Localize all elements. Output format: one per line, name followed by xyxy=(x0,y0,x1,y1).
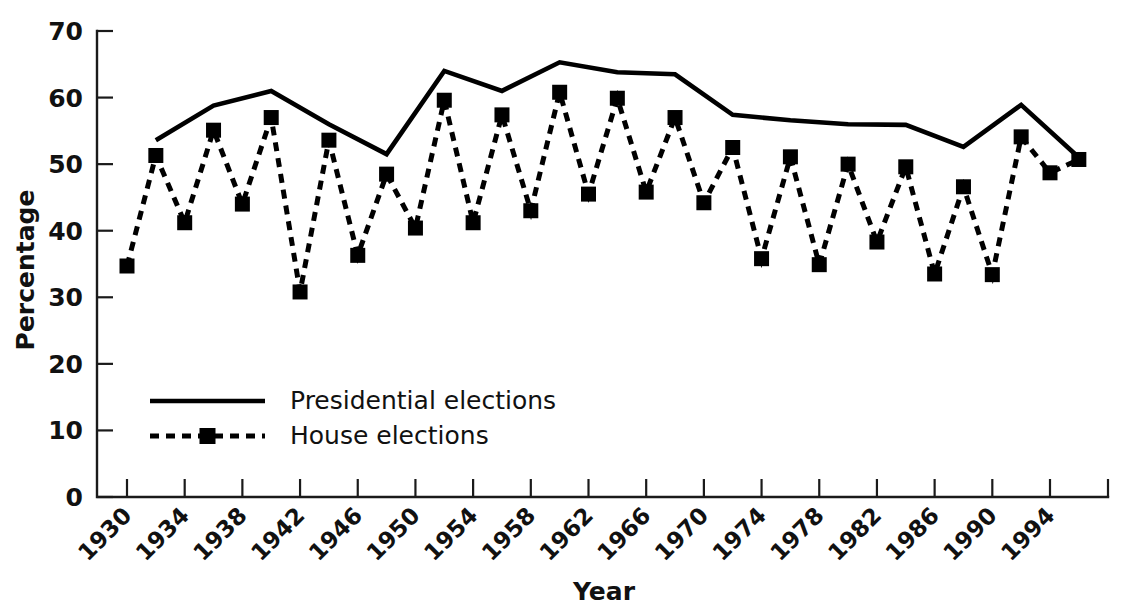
data-point-marker xyxy=(841,157,856,172)
chart-figure: 010203040506070 193019341938194219461950… xyxy=(0,0,1128,616)
chart-series-group xyxy=(120,62,1087,299)
x-tick-label: 1994 xyxy=(996,502,1060,566)
y-tick-label: 40 xyxy=(48,217,83,246)
y-axis-title: Percentage xyxy=(11,190,40,351)
data-point-marker xyxy=(466,215,481,230)
data-point-marker xyxy=(1071,152,1086,167)
x-tick-label: 1986 xyxy=(881,502,945,566)
data-point-marker xyxy=(350,248,365,263)
data-point-marker xyxy=(437,93,452,108)
data-point-marker xyxy=(610,91,625,106)
data-point-marker xyxy=(148,148,163,163)
y-tick-label: 10 xyxy=(48,416,83,445)
data-point-marker xyxy=(639,185,654,200)
x-axis-ticks xyxy=(127,479,1050,497)
chart-legend: Presidential electionsHouse elections xyxy=(150,386,556,450)
y-tick-label: 30 xyxy=(48,283,83,312)
data-point-marker xyxy=(293,284,308,299)
x-tick-label: 1934 xyxy=(131,502,195,566)
data-point-marker xyxy=(494,107,509,122)
x-tick-label: 1966 xyxy=(592,502,656,566)
data-point-marker xyxy=(206,123,221,138)
y-axis-ticks xyxy=(97,31,113,497)
y-tick-label: 20 xyxy=(48,350,83,379)
data-point-marker xyxy=(177,215,192,230)
data-point-marker xyxy=(321,133,336,148)
data-point-marker xyxy=(408,221,423,236)
data-point-marker xyxy=(523,203,538,218)
data-point-marker xyxy=(898,159,913,174)
x-axis-tick-labels: 1930193419381942194619501954195819621966… xyxy=(73,502,1060,566)
axis-lines xyxy=(97,31,1108,497)
data-point-marker xyxy=(668,110,683,125)
x-tick-label: 1942 xyxy=(246,502,310,566)
x-tick-label: 1978 xyxy=(765,502,829,566)
x-tick-label: 1938 xyxy=(188,502,252,566)
data-point-marker xyxy=(783,149,798,164)
data-point-marker xyxy=(985,267,1000,282)
data-point-marker xyxy=(379,167,394,182)
series-line-presidential-elections xyxy=(156,62,1079,157)
x-axis-title: Year xyxy=(572,577,636,606)
y-tick-label: 60 xyxy=(48,84,83,113)
data-point-marker xyxy=(1043,165,1058,180)
x-tick-label: 1990 xyxy=(938,502,1002,566)
data-point-marker xyxy=(869,235,884,250)
x-tick-label: 1970 xyxy=(650,502,714,566)
y-tick-label: 0 xyxy=(66,483,83,512)
legend-label: House elections xyxy=(290,421,489,450)
y-axis-tick-labels: 010203040506070 xyxy=(48,17,83,512)
data-point-marker xyxy=(754,251,769,266)
y-tick-label: 70 xyxy=(48,17,83,46)
data-point-marker xyxy=(581,187,596,202)
x-tick-label: 1958 xyxy=(477,502,541,566)
voter-turnout-line-chart: 010203040506070 193019341938194219461950… xyxy=(0,0,1128,616)
data-point-marker xyxy=(235,197,250,212)
data-point-marker xyxy=(812,257,827,272)
data-point-marker xyxy=(725,140,740,155)
x-tick-label: 1950 xyxy=(361,502,425,566)
data-point-marker xyxy=(956,179,971,194)
legend-marker-square xyxy=(200,428,216,444)
x-tick-label: 1954 xyxy=(419,502,483,566)
x-tick-label: 1946 xyxy=(304,502,368,566)
y-tick-label: 50 xyxy=(48,150,83,179)
data-point-marker xyxy=(264,110,279,125)
legend-label: Presidential elections xyxy=(290,386,556,415)
data-point-marker xyxy=(927,266,942,281)
data-point-marker xyxy=(552,85,567,100)
data-point-marker xyxy=(696,195,711,210)
data-point-marker xyxy=(1014,129,1029,144)
data-point-marker xyxy=(120,259,135,274)
x-tick-label: 1982 xyxy=(823,502,887,566)
chart-axes xyxy=(97,31,1108,497)
x-tick-label: 1962 xyxy=(534,502,598,566)
x-tick-label: 1974 xyxy=(707,502,771,566)
